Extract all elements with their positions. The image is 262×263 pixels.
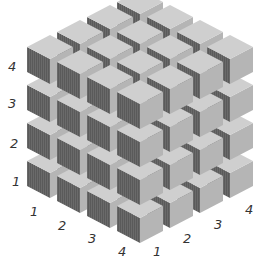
cube-diagram: [0, 0, 262, 263]
right-axis-label: 1: [153, 245, 161, 258]
unit-cubes-group: [27, 0, 253, 243]
left-axis-label: 2: [58, 219, 66, 232]
right-axis-label: 4: [245, 203, 253, 216]
left-axis-label: 3: [88, 232, 96, 245]
vertical-axis-label: 1: [12, 175, 20, 188]
right-axis-label: 3: [214, 218, 222, 231]
right-axis-label: 2: [183, 232, 191, 245]
vertical-axis-label: 4: [8, 60, 16, 73]
vertical-axis-label: 3: [8, 97, 16, 110]
left-axis-label: 4: [118, 245, 126, 258]
vertical-axis-label: 2: [10, 137, 18, 150]
left-axis-label: 1: [30, 205, 38, 218]
